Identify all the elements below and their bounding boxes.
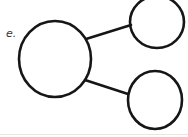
whole-circle[interactable] xyxy=(19,21,91,97)
problem-label: e. xyxy=(6,27,16,40)
edge-whole-to-part-top xyxy=(86,25,131,39)
edge-whole-to-part-bottom xyxy=(85,80,128,94)
part-bottom-circle[interactable] xyxy=(128,71,182,129)
number-bond-diagram: e. xyxy=(0,0,188,137)
part-top-circle[interactable] xyxy=(130,0,184,48)
